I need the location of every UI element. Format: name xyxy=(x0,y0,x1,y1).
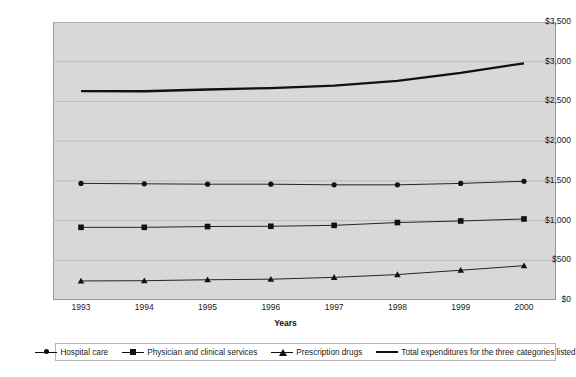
data-point-marker xyxy=(142,181,147,186)
series-line-3 xyxy=(81,63,524,91)
plot-svg xyxy=(53,22,556,300)
data-point-marker xyxy=(78,181,83,186)
data-point-marker xyxy=(268,223,274,229)
chart-legend: Hospital carePhysician and clinical serv… xyxy=(55,343,556,361)
series-layer xyxy=(78,63,528,283)
y-tick-label: $2,500 xyxy=(525,96,571,105)
y-tick-label: $500 xyxy=(525,255,571,264)
data-point-marker xyxy=(331,223,337,229)
x-tick-label: 1993 xyxy=(57,303,105,312)
x-tick-label: 1998 xyxy=(373,303,421,312)
y-tick-label: $1,500 xyxy=(525,176,571,185)
data-point-marker xyxy=(205,182,210,187)
legend-entry: Prescription drugs xyxy=(271,347,362,357)
legend-marker-icon xyxy=(35,347,57,357)
data-point-marker xyxy=(395,220,401,226)
x-tick-label: 2000 xyxy=(500,303,548,312)
x-tick-label: 1994 xyxy=(120,303,168,312)
x-axis-title: Years xyxy=(0,318,571,328)
x-tick-label: 1995 xyxy=(184,303,232,312)
y-tick-label: $1,000 xyxy=(525,216,571,225)
data-point-marker xyxy=(141,225,147,231)
data-point-marker xyxy=(268,182,273,187)
data-point-marker xyxy=(205,224,211,230)
legend-marker-icon xyxy=(122,347,144,357)
series-line-2 xyxy=(81,266,524,281)
x-tick-label: 1996 xyxy=(247,303,295,312)
data-point-marker xyxy=(458,218,464,224)
legend-marker-icon xyxy=(376,347,398,357)
legend-marker-icon xyxy=(271,347,293,357)
series-line-0 xyxy=(81,181,524,185)
y-tick-label: $3,000 xyxy=(525,57,571,66)
legend-label: Prescription drugs xyxy=(296,348,362,357)
legend-label: Physician and clinical services xyxy=(147,348,257,357)
y-tick-label: $3,500 xyxy=(525,17,571,26)
gridlines xyxy=(53,22,556,260)
legend-label: Hospital care xyxy=(60,348,108,357)
x-tick-label: 1997 xyxy=(310,303,358,312)
legend-entry: Total expenditures for the three categor… xyxy=(376,347,575,357)
y-tick-label: $2,000 xyxy=(525,136,571,145)
data-point-marker xyxy=(458,181,463,186)
data-point-marker xyxy=(332,182,337,187)
legend-label: Total expenditures for the three categor… xyxy=(401,348,575,357)
data-point-marker xyxy=(78,225,84,231)
x-tick-label: 1999 xyxy=(437,303,485,312)
legend-entry: Physician and clinical services xyxy=(122,347,257,357)
data-point-marker xyxy=(395,182,400,187)
legend-entry: Hospital care xyxy=(35,347,108,357)
